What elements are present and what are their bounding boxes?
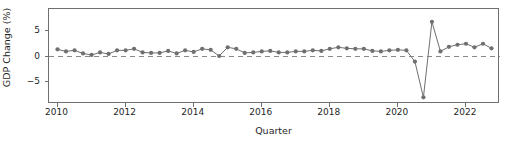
data-point [294, 49, 298, 53]
y-axis-tick-label: 5 [10, 25, 40, 35]
x-axis-tick-label: 2018 [309, 107, 349, 117]
data-point [319, 49, 323, 53]
data-point [328, 47, 332, 51]
data-point [192, 50, 196, 54]
data-point [396, 48, 400, 52]
data-point [260, 49, 264, 53]
data-point [277, 50, 281, 54]
data-point [115, 48, 119, 52]
x-axis-tick-label: 2012 [105, 107, 145, 117]
data-point [302, 49, 306, 53]
data-point [158, 51, 162, 55]
data-point [472, 45, 476, 49]
data-point [353, 47, 357, 51]
data-point [387, 48, 391, 52]
chart-figure: GDP Change (%) 50−5 20102012201420162018… [0, 0, 516, 144]
data-point [123, 48, 127, 52]
data-point [183, 48, 187, 52]
data-point [226, 45, 230, 49]
data-point [98, 50, 102, 54]
data-point [404, 48, 408, 52]
data-point [379, 49, 383, 53]
data-point [89, 53, 93, 57]
y-axis-tick-label: 0 [10, 51, 40, 61]
data-point [149, 51, 153, 55]
data-point [345, 46, 349, 50]
plot-area [48, 8, 499, 103]
data-point [285, 50, 289, 54]
data-point [217, 54, 221, 58]
data-point [234, 47, 238, 51]
data-point [311, 48, 315, 52]
x-axis-tick-label: 2020 [377, 107, 417, 117]
data-point [64, 49, 68, 53]
data-point [413, 60, 417, 64]
data-point [370, 49, 374, 53]
data-point [243, 51, 247, 55]
data-point [481, 42, 485, 46]
data-point [200, 47, 204, 51]
x-axis-tick-label: 2014 [173, 107, 213, 117]
data-point [362, 47, 366, 51]
data-point [209, 48, 213, 52]
data-point [166, 49, 170, 53]
data-point [141, 50, 145, 54]
data-point [268, 49, 272, 53]
data-point [455, 43, 459, 47]
data-point [464, 42, 468, 46]
data-point [336, 45, 340, 49]
data-point [55, 47, 59, 51]
data-point [106, 52, 110, 56]
gdp-change-line [58, 22, 492, 98]
data-point [438, 49, 442, 53]
x-axis-tick-label: 2010 [37, 107, 77, 117]
x-axis-label: Quarter [48, 125, 499, 136]
data-point [81, 51, 85, 55]
data-point [72, 48, 76, 52]
x-axis-tick-label: 2022 [445, 107, 485, 117]
data-point [430, 20, 434, 24]
data-point [251, 50, 255, 54]
series-canvas [49, 9, 500, 104]
data-point [447, 45, 451, 49]
data-point [175, 51, 179, 55]
x-axis-tick-label: 2016 [241, 107, 281, 117]
data-point [489, 46, 493, 50]
data-point [421, 95, 425, 99]
data-point [132, 47, 136, 51]
y-axis-tick-label: −5 [10, 76, 40, 86]
